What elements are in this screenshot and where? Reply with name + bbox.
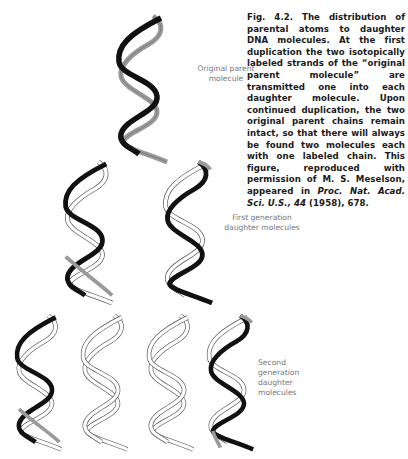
dna-first-generation-2 bbox=[155, 160, 215, 305]
caption-text: The distribution of parental atoms to da… bbox=[247, 12, 405, 196]
double-helix-icon bbox=[74, 310, 129, 455]
dna-second-generation-2 bbox=[74, 310, 129, 455]
label-second-generation: Second generation daughter molecules bbox=[258, 358, 328, 398]
double-helix-icon bbox=[155, 160, 215, 305]
label-first-generation: First generation daughter molecules bbox=[212, 213, 312, 233]
label-line: Second generation bbox=[258, 358, 328, 378]
double-helix-icon bbox=[104, 14, 174, 164]
double-helix-icon bbox=[140, 310, 195, 455]
label-line: molecule bbox=[176, 74, 276, 84]
caption-citation: (1958), 678. bbox=[306, 198, 369, 208]
figure-number: Fig. 4.2. bbox=[247, 12, 293, 22]
dna-original-parent bbox=[104, 14, 174, 164]
label-line: Original parent bbox=[176, 64, 276, 74]
dna-second-generation-1 bbox=[8, 310, 63, 455]
dna-first-generation-1 bbox=[55, 160, 115, 305]
figure-caption: Fig. 4.2. The distribution of parental a… bbox=[247, 12, 405, 209]
dna-second-generation-3 bbox=[140, 310, 195, 455]
label-original-parent: Original parent molecule bbox=[176, 64, 276, 84]
double-helix-icon bbox=[55, 160, 115, 305]
double-helix-icon bbox=[200, 310, 255, 455]
label-line: First generation bbox=[212, 213, 312, 223]
label-line: daughter molecules bbox=[212, 223, 312, 233]
double-helix-icon bbox=[8, 310, 63, 455]
label-line: daughter molecules bbox=[258, 378, 328, 398]
dna-second-generation-4 bbox=[200, 310, 255, 455]
